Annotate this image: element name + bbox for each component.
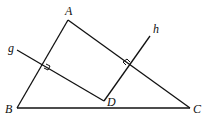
line-g xyxy=(17,50,104,101)
label-c: C xyxy=(193,102,202,116)
label-g: g xyxy=(8,41,14,55)
label-h: h xyxy=(153,22,159,36)
segment-ab xyxy=(17,20,68,108)
label-b: B xyxy=(5,102,13,116)
label-a: A xyxy=(64,4,73,18)
line-h xyxy=(104,36,150,101)
geometry-diagram: A B C D g h xyxy=(0,0,209,121)
segment-ac xyxy=(68,20,190,108)
label-d: D xyxy=(106,95,116,109)
